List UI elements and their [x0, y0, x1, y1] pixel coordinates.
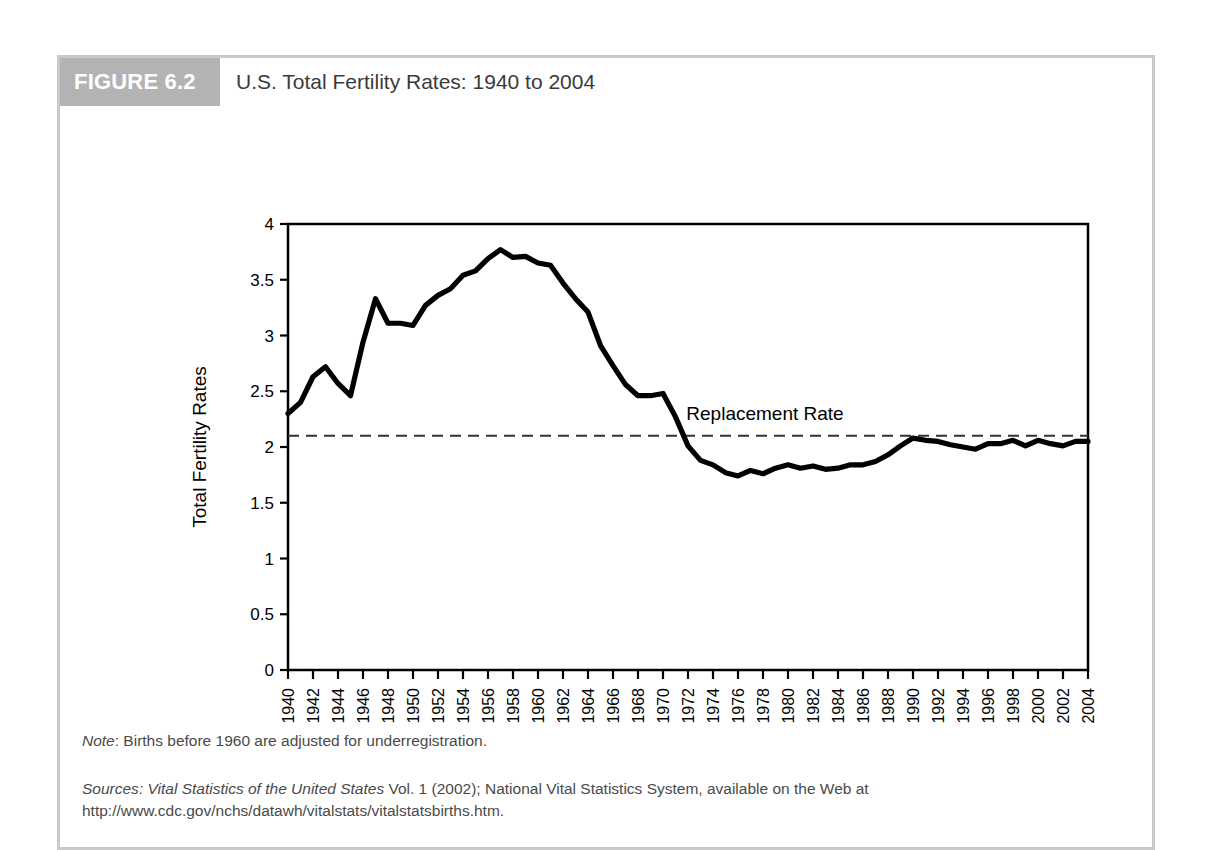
chart-plot-region: 00.511.522.533.5419401942194419461948195…	[60, 106, 1152, 726]
y-axis-tick-label: 4	[265, 215, 274, 234]
fertility-rate-line-chart: 00.511.522.533.5419401942194419461948195…	[60, 106, 1152, 726]
x-axis-tick-label: 1948	[380, 688, 397, 724]
x-axis-tick-label: 1994	[955, 688, 972, 724]
x-axis-tick-label: 1980	[780, 688, 797, 724]
x-axis-tick-label: 1964	[580, 688, 597, 724]
y-axis-tick-label: 2	[265, 438, 274, 457]
sources-title: : Vital Statistics of the United States	[139, 780, 384, 797]
figure-title: U.S. Total Fertility Rates: 1940 to 2004	[236, 58, 595, 106]
x-axis-tick-label: 1942	[305, 688, 322, 724]
y-axis-tick-label: 3.5	[250, 271, 274, 290]
sources-label: Sources	[82, 780, 139, 797]
x-axis-tick-label: 1968	[630, 688, 647, 724]
y-axis-tick-label: 1.5	[250, 494, 274, 513]
x-axis-tick-label: 1998	[1005, 688, 1022, 724]
y-axis-tick-label: 2.5	[250, 382, 274, 401]
x-axis-tick-label: 2004	[1080, 688, 1097, 724]
note-text: : Births before 1960 are adjusted for un…	[115, 732, 487, 749]
figure-container: FIGURE 6.2 U.S. Total Fertility Rates: 1…	[57, 55, 1155, 850]
x-axis-tick-label: 1946	[355, 688, 372, 724]
x-axis-tick-label: 2002	[1055, 688, 1072, 724]
note-label: Note	[82, 732, 115, 749]
y-axis-tick-label: 1	[265, 550, 274, 569]
x-axis-tick-label: 1958	[505, 688, 522, 724]
figure-footnotes: Note: Births before 1960 are adjusted fo…	[82, 730, 1137, 822]
x-axis-tick-label: 1992	[930, 688, 947, 724]
figure-number-badge: FIGURE 6.2	[60, 58, 220, 106]
x-axis-tick-label: 1962	[555, 688, 572, 724]
x-axis-tick-label: 1988	[880, 688, 897, 724]
x-axis-tick-label: 1982	[805, 688, 822, 724]
x-axis-tick-label: 2000	[1030, 688, 1047, 724]
y-axis-tick-label: 0.5	[250, 605, 274, 624]
x-axis-tick-label: 1976	[730, 688, 747, 724]
x-axis-tick-label: 1952	[430, 688, 447, 724]
x-axis-tick-label: 1978	[755, 688, 772, 724]
replacement-rate-label: Replacement Rate	[686, 403, 843, 424]
x-axis-tick-label: 1986	[855, 688, 872, 724]
figure-note: Note: Births before 1960 are adjusted fo…	[82, 730, 1137, 752]
y-axis-tick-label: 3	[265, 327, 274, 346]
x-axis-tick-label: 1974	[705, 688, 722, 724]
y-axis-title: Total Fertility Rates	[189, 366, 210, 528]
x-axis-tick-label: 1950	[405, 688, 422, 724]
fertility-rate-line-series	[288, 250, 1088, 476]
x-axis-tick-label: 1972	[680, 688, 697, 724]
x-axis-tick-label: 1940	[280, 688, 297, 724]
y-axis-tick-label: 0	[265, 661, 274, 680]
x-axis-tick-label: 1954	[455, 688, 472, 724]
x-axis-tick-label: 1956	[480, 688, 497, 724]
x-axis-tick-label: 1990	[905, 688, 922, 724]
x-axis-tick-label: 1960	[530, 688, 547, 724]
x-axis-tick-label: 1996	[980, 688, 997, 724]
figure-sources: Sources: Vital Statistics of the United …	[82, 778, 1137, 822]
x-axis-tick-label: 1944	[330, 688, 347, 724]
x-axis-tick-label: 1984	[830, 688, 847, 724]
x-axis-tick-label: 1966	[605, 688, 622, 724]
x-axis-tick-label: 1970	[655, 688, 672, 724]
